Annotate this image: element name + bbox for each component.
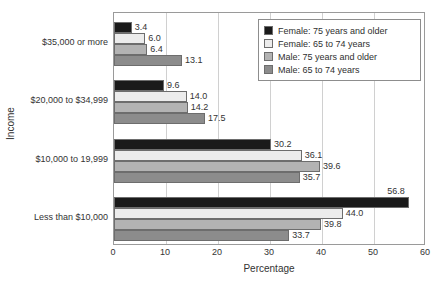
legend-swatch-icon — [264, 52, 273, 61]
bar-value-label: 56.8 — [387, 186, 405, 197]
bar — [114, 80, 164, 91]
x-tick-label: 0 — [110, 247, 115, 257]
bar-value-label: 33.7 — [292, 230, 310, 241]
x-tick-label: 30 — [264, 247, 274, 257]
bar — [114, 230, 289, 241]
y-tick-label: $10,000 to 19,999 — [35, 154, 108, 164]
bar-value-label: 13.1 — [185, 55, 203, 66]
y-tick-label: $35,000 or more — [42, 37, 108, 47]
legend-item-label: Female: 75 years and older — [278, 26, 388, 36]
x-tick-label: 50 — [368, 247, 378, 257]
legend-item-label: Male: 65 to 74 years — [278, 65, 360, 75]
x-axis-title: Percentage — [113, 263, 425, 274]
x-tick-label: 20 — [212, 247, 222, 257]
y-tick-labels: $35,000 or more$20,000 to $34,999$10,000… — [0, 12, 108, 245]
clipped-title-sliver — [4, 0, 244, 5]
legend-swatch-icon — [264, 65, 273, 74]
bar-value-label: 39.8 — [324, 219, 342, 230]
bar — [114, 161, 320, 172]
x-tick-label: 40 — [316, 247, 326, 257]
legend: Female: 75 years and olderFemale: 65 to … — [258, 19, 421, 81]
x-tick-label: 60 — [420, 247, 430, 257]
bar-value-label: 35.7 — [303, 172, 321, 183]
y-tick-label: Less than $10,000 — [34, 212, 108, 222]
bar — [114, 44, 147, 55]
bar — [114, 113, 205, 124]
bar — [114, 22, 132, 33]
bar — [114, 91, 187, 102]
legend-swatch-icon — [264, 39, 273, 48]
bar-value-label: 17.5 — [208, 113, 226, 124]
bar-value-label: 9.6 — [167, 80, 180, 91]
bar — [114, 219, 321, 230]
bar-value-label: 6.0 — [148, 33, 161, 44]
bar — [114, 139, 271, 150]
bar-value-label: 3.4 — [135, 22, 148, 33]
bar-value-label: 14.2 — [191, 102, 209, 113]
legend-item-label: Male: 75 years and older — [278, 52, 377, 62]
legend-item: Female: 65 to 74 years — [264, 37, 415, 50]
legend-swatch-icon — [264, 26, 273, 35]
bar — [114, 102, 188, 113]
legend-item-label: Female: 65 to 74 years — [278, 39, 370, 49]
bar — [114, 208, 343, 219]
legend-item: Male: 75 years and older — [264, 50, 415, 63]
x-tick-label: 10 — [160, 247, 170, 257]
bar — [114, 33, 145, 44]
legend-item: Male: 65 to 74 years — [264, 63, 415, 76]
bar-value-label: 44.0 — [346, 208, 364, 219]
bar — [114, 55, 182, 66]
bar — [114, 150, 302, 161]
y-tick-label: $20,000 to $34,999 — [30, 95, 108, 105]
bar-value-label: 14.0 — [190, 91, 208, 102]
legend-item: Female: 75 years and older — [264, 24, 415, 37]
bar-value-label: 36.1 — [305, 150, 323, 161]
bar-value-label: 30.2 — [274, 139, 292, 150]
bar-chart: Income $35,000 or more$20,000 to $34,999… — [0, 0, 440, 284]
bar-value-label: 39.6 — [323, 161, 341, 172]
bar — [114, 172, 300, 183]
bar-value-label: 6.4 — [150, 44, 163, 55]
bar — [114, 197, 409, 208]
